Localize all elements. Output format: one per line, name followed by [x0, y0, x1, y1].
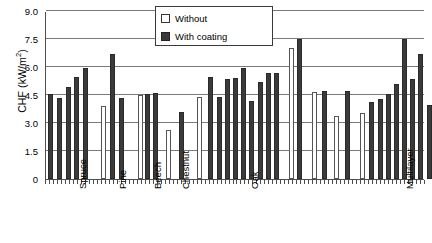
x-tick-95: [424, 180, 425, 184]
bar-15: [217, 97, 222, 179]
y-tick-label-3: 4.5: [6, 91, 38, 100]
bar-36: [418, 54, 423, 179]
x-tick-0: [45, 180, 46, 184]
x-tick-54: [260, 180, 261, 184]
group-label-oak: Oak: [249, 172, 260, 189]
x-tick-50: [244, 180, 245, 184]
x-tick-40: [205, 180, 206, 184]
x-tick-31: [169, 180, 170, 184]
x-tick-86: [388, 180, 389, 184]
x-tick-85: [384, 180, 385, 184]
x-tick-82: [372, 180, 373, 184]
x-tick-25: [145, 180, 146, 184]
x-tick-93: [416, 180, 417, 184]
x-tick-42: [213, 180, 214, 184]
x-tick-84: [380, 180, 381, 184]
x-tick-11: [89, 180, 90, 184]
legend-label-without: Without: [175, 13, 207, 24]
x-tick-70: [324, 180, 325, 184]
y-tick-label-6: 9.0: [6, 7, 38, 16]
bar-16: [225, 79, 230, 179]
bar-25: [312, 92, 317, 179]
x-tick-66: [308, 180, 309, 184]
x-tick-43: [217, 180, 218, 184]
x-tick-78: [356, 180, 357, 184]
x-tick-6: [69, 180, 70, 184]
x-tick-39: [201, 180, 202, 184]
bar-31: [378, 99, 383, 179]
x-tick-46: [229, 180, 230, 184]
bar-29: [360, 113, 365, 179]
bar-14: [208, 77, 213, 179]
legend-item-without: Without: [161, 11, 267, 26]
y-tick-label-2: 3.0: [6, 119, 38, 128]
bar-5: [101, 106, 106, 179]
bar-7: [119, 98, 124, 179]
bar-26: [322, 91, 327, 179]
gridline-4: [46, 66, 424, 67]
legend: Without With coating: [155, 6, 273, 46]
x-tick-83: [376, 180, 377, 184]
group-label-beech: Beech: [152, 162, 163, 189]
x-tick-87: [392, 180, 393, 184]
x-tick-64: [300, 180, 301, 184]
x-tick-17: [113, 180, 114, 184]
x-axis-ticks: [45, 180, 424, 186]
x-tick-68: [316, 180, 317, 184]
x-tick-1: [49, 180, 50, 184]
bar-17: [233, 78, 238, 179]
x-tick-81: [368, 180, 369, 184]
bar-11: [166, 130, 171, 179]
x-tick-56: [268, 180, 269, 184]
x-tick-59: [280, 180, 281, 184]
y-tick-label-4: 6.0: [6, 63, 38, 72]
x-tick-23: [137, 180, 138, 184]
bar-30: [369, 102, 374, 179]
y-tick-label-0: 0: [6, 175, 38, 184]
x-tick-44: [221, 180, 222, 184]
x-tick-65: [304, 180, 305, 184]
legend-swatch-with-coating: [161, 32, 170, 41]
x-tick-7: [73, 180, 74, 184]
group-label-chestnut: Chestnut: [180, 151, 191, 189]
x-tick-75: [344, 180, 345, 184]
group-label-spruce: Spruce: [77, 159, 88, 189]
x-tick-33: [177, 180, 178, 184]
x-tick-58: [276, 180, 277, 184]
legend-label-with-coating: With coating: [175, 31, 227, 42]
x-tick-71: [328, 180, 329, 184]
y-axis-ticks: 01.53.04.56.07.59.0: [2, 0, 38, 243]
bar-24: [297, 39, 302, 179]
bar-13: [197, 97, 202, 179]
bar-6: [110, 54, 115, 179]
x-tick-74: [340, 180, 341, 184]
x-tick-12: [93, 180, 94, 184]
x-tick-47: [233, 180, 234, 184]
bar-1: [57, 98, 62, 179]
legend-item-with-coating: With coating: [161, 29, 267, 44]
x-tick-38: [197, 180, 198, 184]
x-tick-45: [225, 180, 226, 184]
bar-9: [145, 94, 150, 179]
x-tick-77: [352, 180, 353, 184]
x-tick-73: [336, 180, 337, 184]
x-tick-60: [284, 180, 285, 184]
bar-18: [241, 68, 246, 179]
bar-28: [345, 91, 350, 179]
x-tick-80: [364, 180, 365, 184]
x-tick-2: [53, 180, 54, 184]
x-tick-4: [61, 180, 62, 184]
bar-32: [386, 94, 391, 179]
bar-27: [334, 116, 339, 179]
x-tick-69: [320, 180, 321, 184]
x-tick-15: [105, 180, 106, 184]
x-tick-49: [240, 180, 241, 184]
x-tick-16: [109, 180, 110, 184]
x-tick-48: [236, 180, 237, 184]
x-tick-67: [312, 180, 313, 184]
bar-22: [274, 73, 279, 179]
x-tick-76: [348, 180, 349, 184]
x-tick-94: [420, 180, 421, 184]
x-tick-63: [296, 180, 297, 184]
x-tick-37: [193, 180, 194, 184]
